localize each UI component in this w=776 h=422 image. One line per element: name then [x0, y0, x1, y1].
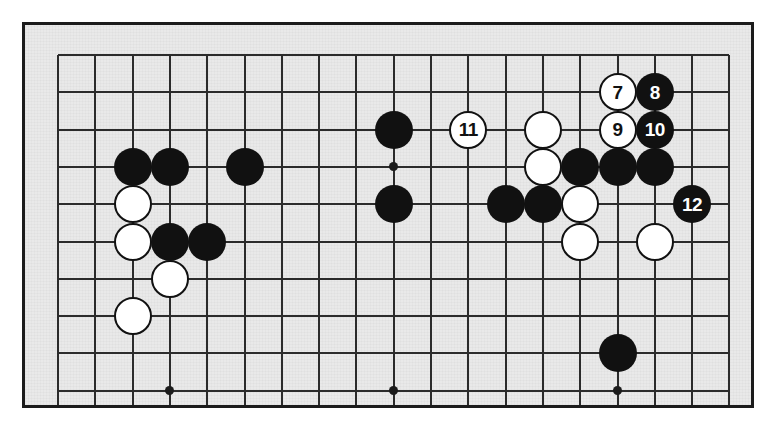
stone-move-number: 12: [682, 195, 702, 214]
stone-white: [636, 223, 674, 261]
stone-move-number: 11: [459, 120, 478, 139]
go-board-diagram-screenshot: 117891012: [0, 0, 776, 422]
stone-white-move-9: 9: [599, 111, 637, 149]
go-board-stones: 117891012: [25, 25, 751, 405]
stone-move-number: 8: [650, 83, 660, 102]
stone-white: [114, 297, 152, 335]
stone-black-move-8: 8: [636, 73, 674, 111]
stone-white-move-7: 7: [599, 73, 637, 111]
go-board-frame: 117891012: [22, 22, 754, 408]
stone-black: [487, 185, 525, 223]
stone-white: [524, 148, 562, 186]
stone-black: [114, 148, 152, 186]
stone-white: [114, 185, 152, 223]
stone-black: [151, 223, 189, 261]
stone-black: [561, 148, 599, 186]
stone-black: [636, 148, 674, 186]
stone-black: [599, 148, 637, 186]
stone-white: [561, 185, 599, 223]
stone-white-move-11: 11: [449, 111, 487, 149]
stone-move-number: 10: [645, 120, 665, 139]
stone-black: [188, 223, 226, 261]
stone-black: [226, 148, 264, 186]
stone-black: [524, 185, 562, 223]
stone-black: [375, 185, 413, 223]
stone-white: [561, 223, 599, 261]
stone-black-move-10: 10: [636, 111, 674, 149]
stone-move-number: 9: [612, 120, 622, 139]
stone-white: [151, 260, 189, 298]
stone-white: [524, 111, 562, 149]
stone-black: [599, 334, 637, 372]
stone-move-number: 7: [612, 83, 622, 102]
stone-white: [114, 223, 152, 261]
stone-black: [375, 111, 413, 149]
stone-black: [151, 148, 189, 186]
stone-black-move-12: 12: [673, 185, 711, 223]
